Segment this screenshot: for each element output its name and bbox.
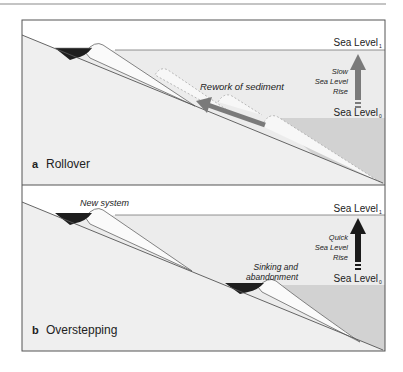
rise-label-3: Rise (333, 87, 348, 96)
panel-title-b: Overstepping (46, 323, 117, 337)
new-system-label: New system (80, 198, 130, 208)
sea-level-0-sub-b: 0 (379, 279, 382, 285)
sea-level-0-label-b: Sea Level (334, 273, 378, 284)
sinking-label-2: abandonment (246, 272, 299, 282)
panel-letter-b: b (32, 324, 39, 336)
rise-label-3: Rise (333, 253, 348, 262)
sinking-label-1: Sinking and (254, 262, 299, 272)
rise-label-1: Slow (332, 67, 349, 76)
rise-label-1: Quick (329, 233, 349, 242)
barrier-transgression-diagram: Rework of sediment Slow Sea Level Rise S… (0, 0, 403, 372)
panel-a-rollover: Rework of sediment Slow Sea Level Rise S… (22, 20, 385, 185)
sea-level-0-sub-a: 0 (379, 113, 382, 119)
sea-level-1-label-a: Sea Level (334, 37, 378, 48)
rework-label: Rework of sediment (200, 81, 284, 92)
sea-level-1-sub-b: 1 (379, 209, 382, 215)
sea-level-0-label-a: Sea Level (334, 107, 378, 118)
rise-label-2: Sea Level (315, 243, 349, 252)
sea-level-1-label-b: Sea Level (334, 203, 378, 214)
sea-level-1-sub-a: 1 (379, 43, 382, 49)
rise-label-2: Sea Level (315, 77, 349, 86)
panel-b-overstepping: New system Sinking and abandonment Quick… (22, 185, 385, 351)
panel-letter-a: a (32, 158, 39, 170)
panel-title-a: Rollover (46, 157, 90, 171)
